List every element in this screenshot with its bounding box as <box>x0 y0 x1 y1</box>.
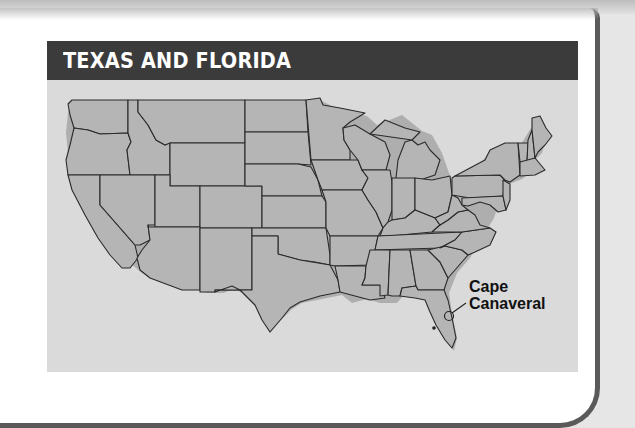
state-new-mexico <box>200 228 252 292</box>
label-line-2: Canaveral <box>469 295 546 312</box>
map-title-bar: TEXAS AND FLORIDA <box>47 41 578 80</box>
us-map <box>47 80 578 372</box>
callout-line <box>452 303 466 313</box>
state-kansas <box>262 196 326 228</box>
state-wyoming <box>170 143 245 186</box>
state-north-dakota <box>245 100 308 132</box>
city-dot-icon <box>432 326 436 330</box>
state-oregon <box>66 128 131 175</box>
state-south-dakota <box>245 132 311 165</box>
card-top-shadow <box>0 8 598 20</box>
cape-canaveral-label: Cape Canaveral <box>469 278 546 312</box>
state-colorado <box>200 186 262 228</box>
state-massachusetts <box>520 158 545 176</box>
state-vermont <box>518 143 528 162</box>
state-pennsylvania <box>452 175 505 198</box>
map-panel <box>47 80 578 372</box>
map-title: TEXAS AND FLORIDA <box>63 49 291 73</box>
label-line-1: Cape <box>469 278 546 295</box>
